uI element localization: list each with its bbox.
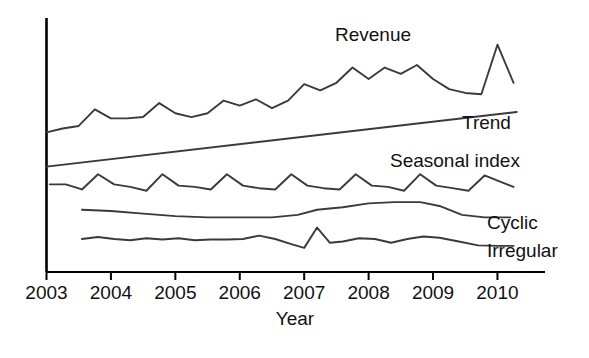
series-label-revenue: Revenue (335, 24, 411, 46)
series-lines (47, 45, 517, 248)
x-axis-tick-label: 2005 (154, 282, 196, 304)
series-line-seasonal-index (50, 174, 514, 191)
series-label-trend: Trend (462, 112, 511, 134)
x-axis-title: Year (276, 308, 314, 330)
x-axis-tick-label: 2004 (90, 282, 132, 304)
series-line-revenue (47, 45, 514, 133)
series-line-cyclic (82, 202, 510, 217)
series-label-seasonal-index: Seasonal index (390, 150, 520, 172)
x-axis-tick-label: 2010 (476, 282, 518, 304)
x-axis-ticks (47, 272, 498, 280)
series-label-cyclic: Cyclic (487, 212, 538, 234)
x-axis-tick-label: 2007 (283, 282, 325, 304)
x-axis-tick-label: 2003 (25, 282, 67, 304)
x-axis-tick-label: 2006 (219, 282, 261, 304)
series-label-irregular: Irregular (487, 240, 558, 262)
chart-plot-area (0, 0, 589, 358)
x-axis-tick-label: 2008 (347, 282, 389, 304)
x-axis-tick-label: 2009 (412, 282, 454, 304)
series-line-irregular (82, 228, 514, 248)
axis-group (47, 18, 546, 280)
chart-figure: Revenue Trend Seasonal index Cyclic Irre… (0, 0, 589, 358)
